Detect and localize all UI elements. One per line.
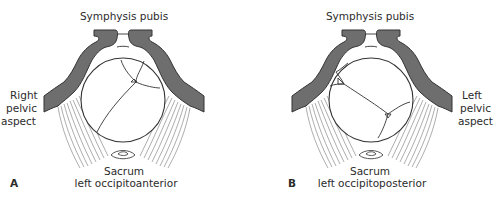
symphysis-joint bbox=[117, 34, 129, 47]
sacrum-label: Sacrum bbox=[350, 165, 390, 177]
panel-a-left-occipitoanterior: Symphysis pubis Right pelvic aspect Sacr… bbox=[0, 0, 248, 198]
fetal-head bbox=[81, 58, 165, 142]
sacrum-promontory bbox=[111, 151, 135, 159]
pelvic-aspect-label-line2: pelvic bbox=[460, 102, 491, 114]
sacrum-promontory bbox=[359, 151, 383, 159]
panel-letter: A bbox=[10, 177, 18, 189]
fetal-head bbox=[329, 58, 413, 142]
position-label: left occipitoanterior bbox=[75, 177, 178, 189]
symphysis-pubis-label: Symphysis pubis bbox=[326, 10, 414, 22]
panel-b-left-occipitoposterior: Symphysis pubis Left pelvic aspect Sacru… bbox=[248, 0, 496, 198]
pelvic-aspect-label-line3: aspect bbox=[1, 115, 36, 127]
position-label: left occipitoposterior bbox=[318, 177, 426, 189]
sacrum-label: Sacrum bbox=[104, 165, 144, 177]
symphysis-pubis-label: Symphysis pubis bbox=[80, 10, 168, 22]
pelvic-aspect-label-line2: pelvic bbox=[6, 102, 37, 114]
symphysis-joint bbox=[365, 34, 377, 47]
pelvic-aspect-label-line1: Left bbox=[462, 89, 482, 101]
pelvic-aspect-label-line1: Right bbox=[10, 89, 38, 101]
panel-letter: B bbox=[288, 177, 296, 189]
pelvic-aspect-label-line3: aspect bbox=[458, 115, 493, 127]
